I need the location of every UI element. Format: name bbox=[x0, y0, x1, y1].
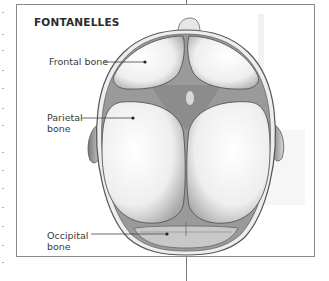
right-parietal-bone bbox=[187, 102, 270, 224]
label-parietal-line2: bone bbox=[47, 123, 87, 134]
label-frontal-bone: Frontal bone bbox=[49, 56, 108, 67]
label-occipital-bone: Occipital bone bbox=[47, 230, 97, 252]
figure-title: FONTANELLES bbox=[34, 16, 120, 28]
fontanelle-highlight bbox=[186, 91, 194, 105]
left-parietal-bone bbox=[102, 102, 185, 224]
frontal-dot bbox=[143, 60, 146, 63]
label-occipital-line2: bone bbox=[47, 241, 97, 252]
label-parietal-bone: Parietal bone bbox=[47, 112, 87, 134]
label-parietal-line1: Parietal bbox=[47, 112, 87, 123]
parietal-dot bbox=[131, 116, 134, 119]
occipital-dot bbox=[165, 232, 168, 235]
label-occipital-line1: Occipital bbox=[47, 230, 97, 241]
